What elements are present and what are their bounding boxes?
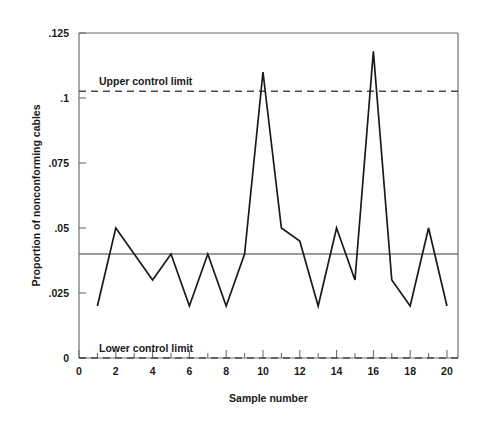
x-tick-label: 10 [257, 365, 269, 377]
control-chart: 0.025.05.075.1.125 02468101214161820 Upp… [0, 0, 481, 423]
x-tick-label: 4 [150, 365, 156, 377]
y-tick-label: .125 [49, 27, 70, 39]
upper-control-limit-label: Upper control limit [99, 75, 193, 87]
y-tick-label: .025 [49, 287, 70, 299]
y-tick-label: .05 [54, 222, 69, 234]
x-tick-label: 8 [223, 365, 229, 377]
y-tick-label: .1 [60, 92, 69, 104]
x-tick-label: 18 [404, 365, 416, 377]
x-tick-label: 2 [113, 365, 119, 377]
x-tick-label: 12 [294, 365, 306, 377]
y-tick-label: 0 [63, 352, 69, 364]
chart-background [0, 0, 481, 423]
x-tick-label: 0 [76, 365, 82, 377]
x-axis-title: Sample number [229, 392, 308, 404]
x-tick-label: 16 [368, 365, 380, 377]
x-tick-label: 14 [331, 365, 343, 377]
chart-canvas: 0.025.05.075.1.125 02468101214161820 Upp… [0, 0, 481, 423]
y-tick-label: .075 [49, 157, 70, 169]
x-tick-label: 6 [186, 365, 192, 377]
y-axis-title: Proportion of nonconforming cables [30, 104, 42, 286]
x-tick-label: 20 [441, 365, 453, 377]
lower-control-limit-label: Lower control limit [99, 342, 193, 354]
